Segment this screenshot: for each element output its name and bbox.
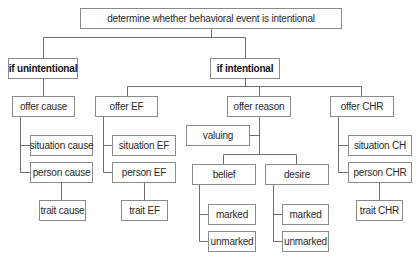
- behavior-explanation-tree: determine whether behavioral event is in…: [0, 0, 420, 260]
- intentional-node: if intentional: [210, 58, 280, 79]
- valuing-node: valuing: [186, 125, 250, 146]
- situation-cause-node: situation cause: [30, 135, 93, 156]
- belief-unmarked-node: unmarked: [208, 231, 256, 252]
- belief-node: belief: [192, 164, 256, 185]
- connector-offer-ef: [104, 116, 113, 173]
- connector-offer-cause: [21, 116, 31, 173]
- offer-ef-node: offer EF: [95, 96, 158, 117]
- trait-cause-node: trait cause: [39, 200, 86, 221]
- trait-ef-node: trait EF: [121, 200, 168, 221]
- person-chr-node: person CHR: [348, 162, 412, 183]
- connector-offer-chr: [339, 116, 349, 173]
- offer-cause-node: offer cause: [12, 96, 75, 117]
- connector-intentional: [128, 78, 362, 96]
- offer-reason-node: offer reason: [227, 96, 291, 117]
- unintentional-node: if unintentional: [8, 58, 78, 79]
- person-cause-node: person cause: [30, 162, 93, 183]
- person-ef-node: person EF: [112, 162, 176, 183]
- connector-desire: [274, 184, 283, 242]
- connector-belief: [200, 184, 209, 242]
- situation-ch-node: situation CH: [348, 135, 412, 156]
- connector-root: [44, 28, 246, 58]
- situation-ef-node: situation EF: [112, 135, 176, 156]
- belief-marked-node: marked: [208, 204, 256, 225]
- root-node: determine whether behavioral event is in…: [80, 8, 342, 29]
- trait-chr-node: trait CHR: [356, 200, 403, 221]
- desire-unmarked-node: unmarked: [282, 231, 329, 252]
- desire-node: desire: [265, 164, 329, 185]
- offer-chr-node: offer CHR: [330, 96, 394, 117]
- desire-marked-node: marked: [282, 204, 329, 225]
